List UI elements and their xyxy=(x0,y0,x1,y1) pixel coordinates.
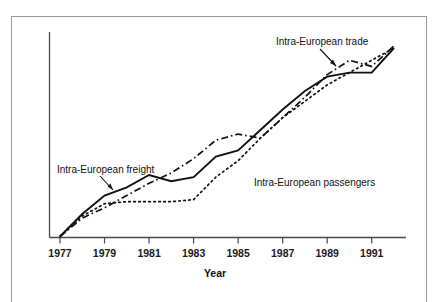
x-axis-tick-label: 1981 xyxy=(137,247,161,259)
x-axis-tick-label: 1977 xyxy=(48,247,72,259)
annotation-intra-european-passengers: Intra-European passengers xyxy=(254,177,375,188)
annotation-intra-european-freight: Intra-European freight xyxy=(57,164,155,175)
x-axis-tick-label: 1985 xyxy=(226,247,250,259)
x-axis-tick-label: 1983 xyxy=(182,247,206,259)
series-line-intra-european-passengers xyxy=(60,48,394,237)
x-axis-title: Year xyxy=(204,267,226,279)
figure-page: 19771979198119831985198719891991 Intra-E… xyxy=(0,0,442,302)
x-axis-tick-labels: 19771979198119831985198719891991 xyxy=(48,247,383,259)
annotation-intra-european-trade: Intra-European trade xyxy=(276,36,369,47)
x-axis-tick-label: 1991 xyxy=(360,247,384,259)
line-chart: 19771979198119831985198719891991 Intra-E… xyxy=(0,0,442,302)
data-series-group xyxy=(60,46,394,237)
x-axis-ticks xyxy=(60,238,372,244)
x-axis-tick-label: 1987 xyxy=(271,247,295,259)
x-axis-tick-label: 1979 xyxy=(93,247,117,259)
x-axis-tick-label: 1989 xyxy=(316,247,340,259)
